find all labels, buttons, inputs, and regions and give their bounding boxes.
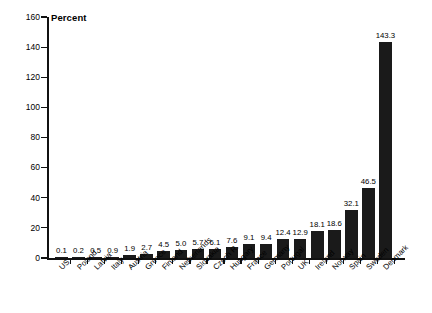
y-axis-tick-label: 120 — [2, 73, 40, 82]
bar-value-label: 143.3 — [371, 32, 399, 40]
plot-area: 0.10.20.50.91.92.74.55.05.76.17.69.19.41… — [47, 17, 405, 258]
y-axis-tick-label: 140 — [2, 43, 40, 52]
y-axis-tick-label: 160 — [2, 13, 40, 22]
y-axis-tick — [41, 77, 47, 78]
y-axis-tick — [41, 227, 47, 228]
y-axis-tick — [41, 257, 47, 258]
y-axis-tick — [41, 167, 47, 168]
bar — [362, 188, 375, 258]
y-axis-tick — [41, 107, 47, 108]
y-axis-tick — [41, 137, 47, 138]
y-axis-tick-label: 100 — [2, 103, 40, 112]
y-axis-tick-label: 60 — [2, 163, 40, 172]
y-axis-tick-label: 80 — [2, 133, 40, 142]
bar — [311, 231, 324, 258]
y-axis-tick-labels: 020406080100120140160 — [0, 0, 40, 313]
y-axis-tick-label: 0 — [2, 254, 40, 263]
bar-chart: Percent 020406080100120140160 0.10.20.50… — [0, 0, 432, 313]
y-axis-tick — [41, 47, 47, 48]
bar — [379, 42, 392, 258]
y-axis-tick — [41, 16, 47, 17]
y-axis-tick-label: 40 — [2, 194, 40, 203]
y-axis-tick — [41, 197, 47, 198]
y-axis-tick-label: 20 — [2, 224, 40, 233]
